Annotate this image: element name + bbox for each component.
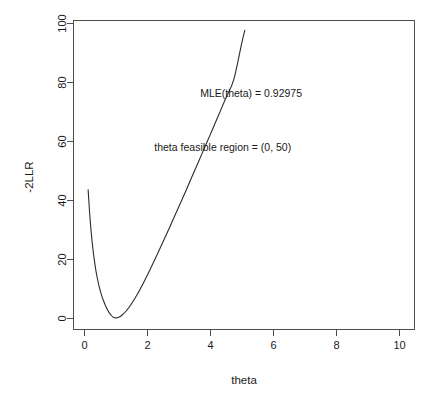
x-tick-label: 8 (333, 339, 339, 351)
y-tick-label: 40 (56, 194, 68, 206)
x-axis-tick-labels: 0246810 (81, 339, 405, 351)
y-tick-label: 100 (56, 14, 68, 32)
feasible-region-annotation: theta feasible region = (0, 50) (154, 141, 291, 153)
llr-curve (88, 30, 245, 318)
data-series-group (88, 30, 245, 318)
x-tick-label: 2 (144, 339, 150, 351)
y-tick-label: 0 (56, 315, 68, 321)
x-axis-ticks (85, 330, 400, 336)
x-tick-label: 10 (393, 339, 405, 351)
y-axis-title: -2LLR (23, 161, 35, 192)
y-tick-label: 80 (56, 76, 68, 88)
x-tick-label: 4 (207, 339, 213, 351)
x-tick-label: 6 (270, 339, 276, 351)
chart-page: 0246810 020406080100 MLE(theta) = 0.9297… (0, 0, 433, 403)
x-tick-label: 0 (81, 339, 87, 351)
y-tick-label: 20 (56, 253, 68, 265)
plot-box-frame (74, 21, 415, 330)
y-tick-label: 60 (56, 135, 68, 147)
llr-plot: 0246810 020406080100 MLE(theta) = 0.9297… (0, 0, 433, 403)
y-axis-tick-labels: 020406080100 (56, 14, 68, 321)
y-axis-ticks (67, 24, 73, 319)
mle-annotation: MLE(theta) = 0.92975 (200, 87, 302, 99)
x-axis-title: theta (231, 374, 257, 386)
annotations-group: MLE(theta) = 0.92975theta feasible regio… (154, 87, 302, 154)
